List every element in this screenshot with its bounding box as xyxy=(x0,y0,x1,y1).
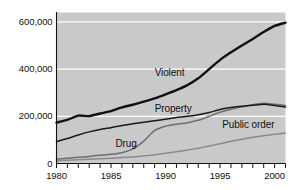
y-tick-label-400000: 400,000 xyxy=(19,64,53,74)
y-tick-label-200000: 200,000 xyxy=(19,111,53,121)
series-label-public-order: Public order xyxy=(222,120,274,130)
x-tick-label-1990: 1990 xyxy=(146,171,186,181)
x-tick-label-1995: 1995 xyxy=(200,171,240,181)
plot-background-group xyxy=(57,13,286,164)
series-label-drug: Drug xyxy=(115,139,136,149)
plot-area-background xyxy=(57,13,286,164)
y-tick-label-0: 0 xyxy=(47,159,52,169)
x-tick-label-1980: 1980 xyxy=(37,171,77,181)
x-tick-label-2000: 2000 xyxy=(255,171,295,181)
chart-canvas xyxy=(0,0,299,190)
y-tick-label-600000: 600,000 xyxy=(19,17,53,27)
series-label-property: Property xyxy=(155,104,192,114)
x-tick-label-1985: 1985 xyxy=(91,171,131,181)
line-chart: 0200,000400,000600,000 19801985199019952… xyxy=(0,0,299,190)
series-label-violent: Violent xyxy=(155,68,185,78)
x-axis-tick-marks xyxy=(57,164,286,169)
